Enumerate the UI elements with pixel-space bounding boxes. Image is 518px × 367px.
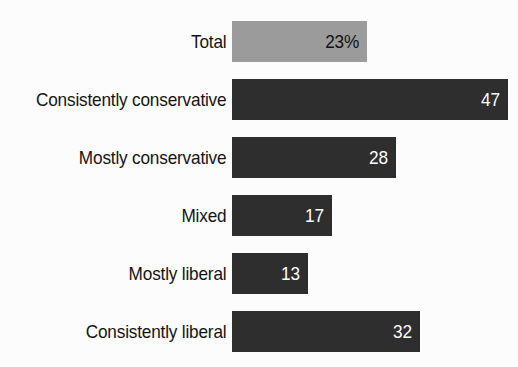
bar-value-label: 13: [281, 264, 308, 284]
bar-track: 17: [232, 195, 518, 236]
bar-chart-figure: Total23%Consistently conservative47Mostl…: [0, 0, 518, 367]
bar-track: 23%: [232, 21, 518, 62]
bar-value-label: 32: [393, 322, 420, 342]
bar-row: Mixed17: [0, 195, 518, 236]
bar-rect: 13: [232, 253, 308, 294]
bar-category-label: Mostly conservative: [16, 148, 232, 168]
bar-row: Consistently liberal32: [0, 311, 518, 352]
bar-rect: 47: [232, 79, 508, 120]
bar-rect: 23%: [232, 21, 367, 62]
bar-rows-container: Total23%Consistently conservative47Mostl…: [0, 0, 518, 367]
bar-row: Total23%: [0, 21, 518, 62]
bar-track: 28: [232, 137, 518, 178]
bar-rect: 32: [232, 311, 420, 352]
bar-track: 13: [232, 253, 518, 294]
bar-category-label: Consistently liberal: [16, 322, 232, 342]
bar-value-label: 28: [369, 148, 396, 168]
bar-track: 32: [232, 311, 518, 352]
bar-category-label: Consistently conservative: [16, 90, 232, 110]
bar-category-label: Mostly liberal: [16, 264, 232, 284]
bar-value-label: 17: [305, 206, 332, 226]
bar-track: 47: [232, 79, 518, 120]
bar-row: Consistently conservative47: [0, 79, 518, 120]
bar-row: Mostly liberal13: [0, 253, 518, 294]
bar-row: Mostly conservative28: [0, 137, 518, 178]
bar-category-label: Total: [16, 32, 232, 52]
bar-rect: 17: [232, 195, 332, 236]
bar-rect: 28: [232, 137, 396, 178]
bar-value-label: 23%: [325, 32, 367, 52]
bar-value-label: 47: [481, 90, 508, 110]
bar-category-label: Mixed: [16, 206, 232, 226]
